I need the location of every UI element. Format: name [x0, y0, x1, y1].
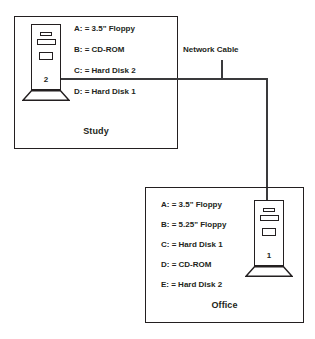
drive-list-item: D: = CD-ROM — [161, 261, 226, 269]
drive-list-item: C: = Hard Disk 1 — [161, 241, 226, 249]
tower-body: 1 — [254, 200, 284, 266]
drive-list-item: E: = Hard Disk 2 — [161, 281, 226, 289]
drive-list-item: A: = 3.5" Floppy — [74, 25, 136, 33]
network-cable-horizontal-segment — [61, 78, 268, 80]
room-label-study: Study — [14, 126, 178, 136]
network-cable-leader-line — [221, 60, 223, 78]
floppy-slot-icon — [263, 208, 275, 212]
drive-bay-icon — [262, 228, 276, 236]
drive-list-item: B: = 5.25" Floppy — [161, 221, 226, 229]
computer-tower-study: 2 — [31, 24, 70, 101]
computer-number-office: 1 — [255, 252, 283, 260]
diagram-canvas: 2 A: = 3.5" Floppy B: = CD-ROM C: = Hard… — [0, 0, 315, 339]
drive-list-study: A: = 3.5" Floppy B: = CD-ROM C: = Hard D… — [74, 25, 136, 109]
computer-tower-office: 1 — [254, 200, 293, 277]
tower-base-icon — [245, 266, 293, 277]
tower-body: 2 — [31, 24, 61, 90]
floppy-slot-icon — [40, 32, 52, 36]
drive-list-item: B: = CD-ROM — [74, 46, 136, 54]
drive-list-item: C: = Hard Disk 2 — [74, 67, 136, 75]
network-cable-label: Network Cable — [183, 45, 239, 54]
drive-bay-icon — [39, 52, 53, 60]
drive-list-office: A: = 3.5" Floppy B: = 5.25" Floppy C: = … — [161, 201, 226, 301]
tower-base-icon — [22, 90, 70, 101]
computer-number-study: 2 — [32, 76, 60, 84]
drive-list-item: D: = Hard Disk 1 — [74, 88, 136, 96]
optical-drive-icon — [260, 215, 279, 221]
network-cable-vertical-segment — [266, 78, 268, 202]
optical-drive-icon — [37, 39, 56, 45]
drive-list-item: A: = 3.5" Floppy — [161, 201, 226, 209]
room-label-office: Office — [145, 300, 304, 310]
